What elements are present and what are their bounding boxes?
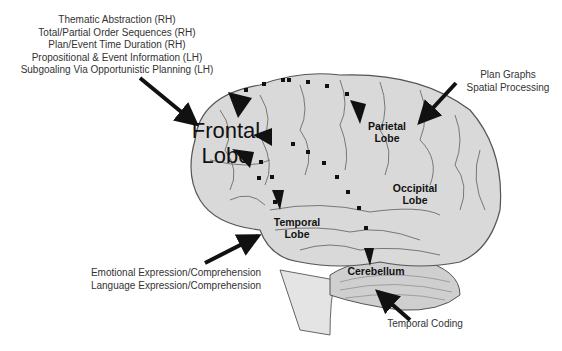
temporal-functions-list: Emotional Expression/Comprehension Langu…	[86, 267, 266, 292]
temporal-lobe-label-line: Lobe	[262, 228, 332, 240]
frontal-lobe-label: Frontal Lobe	[176, 118, 276, 168]
frontal-functions-list: Thematic Abstraction (RH) Total/Partial …	[6, 14, 228, 77]
parietal-lobe-label-line: Parietal	[352, 120, 422, 132]
frontal-function: Plan/Event Time Duration (RH)	[6, 39, 228, 52]
frontal-lobe-label-line: Lobe	[176, 143, 276, 168]
parietal-function: Plan Graphs	[458, 69, 558, 82]
frontal-function: Thematic Abstraction (RH)	[6, 14, 228, 27]
occipital-lobe-label: Occipital Lobe	[380, 182, 450, 206]
brain-diagram: Thematic Abstraction (RH) Total/Partial …	[0, 0, 562, 351]
parietal-lobe-label-line: Lobe	[352, 132, 422, 144]
cerebellum-label: Cerebellum	[336, 265, 416, 277]
frontal-lobe-label-line: Frontal	[176, 118, 276, 143]
frontal-function: Subgoaling Via Opportunistic Planning (L…	[6, 64, 228, 77]
brain-stem	[280, 270, 335, 335]
parietal-function: Spatial Processing	[458, 82, 558, 95]
occipital-lobe-label-line: Occipital	[380, 182, 450, 194]
cerebellum-function: Temporal Coding	[380, 318, 470, 331]
parietal-functions-list: Plan Graphs Spatial Processing	[458, 69, 558, 94]
temporal-function: Emotional Expression/Comprehension	[86, 267, 266, 280]
cerebellum-functions-list: Temporal Coding	[380, 318, 470, 331]
occipital-lobe-label-line: Lobe	[380, 194, 450, 206]
parietal-lobe-label: Parietal Lobe	[352, 120, 422, 144]
temporal-function: Language Expression/Comprehension	[86, 280, 266, 293]
temporal-lobe-label: Temporal Lobe	[262, 216, 332, 240]
temporal-lobe-label-line: Temporal	[262, 216, 332, 228]
frontal-function: Propositional & Event Information (LH)	[6, 52, 228, 65]
frontal-function: Total/Partial Order Sequences (RH)	[6, 27, 228, 40]
